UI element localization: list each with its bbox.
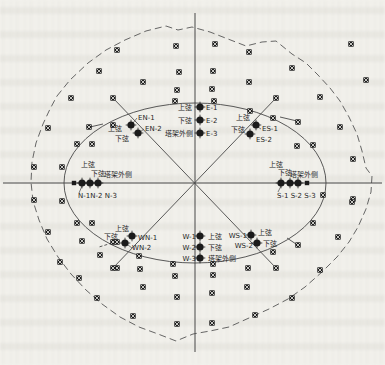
point-dot (196, 243, 203, 250)
label-ws1: WS-1 (229, 232, 247, 240)
label-e2: E-2 (206, 117, 217, 125)
label-n-ids: N-1N-2 N-3 (78, 192, 117, 200)
grid-marker (110, 95, 115, 100)
point-dot (127, 121, 134, 128)
grid-marker (317, 94, 322, 99)
point-dot (247, 231, 254, 238)
measure-point-w-3 (195, 253, 206, 264)
grid-marker (97, 252, 102, 257)
grid-marker (174, 321, 179, 326)
label-e1: E-1 (206, 104, 217, 112)
grid-marker (137, 266, 142, 271)
measure-point-e-2 (195, 115, 206, 126)
grid-marker (173, 43, 178, 48)
label-ws2: WS-2 (235, 242, 253, 250)
point-dot (121, 239, 128, 246)
label-wn-upper: 上弦 (115, 224, 129, 233)
label-n-outer: 塔架外侧 (104, 170, 132, 179)
point-dot (286, 179, 293, 186)
layout-diagram-svg: 上弦下弦塔架外侧E-1E-2E-3EN-1EN-2上弦下弦上弦下弦ES-1ES-… (0, 0, 385, 365)
grid-marker (59, 164, 64, 169)
grid-marker (76, 275, 81, 280)
ring-marker (89, 141, 94, 146)
grid-marker (289, 65, 294, 70)
measure-point-ws-1 (246, 230, 257, 241)
point-dot (277, 179, 284, 186)
grid-marker (294, 143, 299, 148)
grid-marker (31, 197, 36, 202)
grid-marker (310, 220, 315, 225)
label-n-lower: 下弦 (91, 169, 105, 178)
grid-marker (74, 141, 79, 146)
point-dot (252, 121, 259, 128)
grid-marker (295, 119, 300, 124)
point-dot (86, 179, 93, 186)
label-en-lower: 下弦 (115, 134, 129, 143)
grid-marker (310, 142, 315, 147)
grid-marker (209, 320, 214, 325)
grid-marker (212, 41, 217, 46)
label-wn2: WN-2 (132, 244, 151, 252)
grid-marker (68, 95, 73, 100)
grid-marker (209, 86, 214, 91)
label-e-lower: 下弦 (178, 116, 192, 125)
label-e-upper: 上弦 (178, 103, 192, 112)
grid-marker (59, 198, 64, 203)
grid-marker (94, 295, 99, 300)
label-en2: EN-2 (145, 125, 162, 133)
axis-end-square (72, 181, 76, 185)
grid-marker (45, 229, 50, 234)
label-wn-lower: 下弦 (104, 232, 118, 241)
point-dot (196, 116, 203, 123)
grid-marker (348, 41, 353, 46)
point-dot (246, 130, 253, 137)
axis-end-square (305, 181, 309, 185)
point-dot (196, 129, 203, 136)
label-w1: W-1 (182, 233, 196, 241)
point-dot (78, 179, 85, 186)
point-dot (94, 179, 101, 186)
grid-marker (295, 242, 300, 247)
grid-marker (350, 156, 355, 161)
spoke-line-3 (90, 124, 103, 127)
measure-point-s-3 (293, 178, 304, 189)
grid-marker (289, 295, 294, 300)
label-w-lower: 下弦 (208, 243, 222, 252)
measure-point-w-2 (195, 242, 206, 253)
label-wn1: WN-1 (138, 234, 157, 242)
grid-marker (363, 77, 368, 82)
ring-marker (170, 261, 175, 266)
grid-marker (140, 284, 145, 289)
grid-marker (210, 272, 215, 277)
label-es-lower: 下弦 (231, 125, 245, 134)
measure-point-n-3 (93, 178, 104, 189)
label-es2: ES-2 (256, 136, 272, 144)
measure-point-en-2 (133, 128, 144, 139)
label-s-upper: 上弦 (269, 160, 283, 169)
ring-marker (89, 220, 94, 225)
grid-marker (130, 313, 135, 318)
label-e-outer: 塔架外侧 (165, 129, 193, 138)
point-dot (253, 239, 260, 246)
ring-marker (211, 98, 216, 103)
grid-marker (140, 79, 145, 84)
grid-marker (273, 265, 278, 270)
grid-marker (210, 68, 215, 73)
point-dot (128, 232, 135, 239)
label-es-upper: 上弦 (236, 113, 250, 122)
grid-marker (31, 164, 36, 169)
ring-marker (270, 115, 275, 120)
point-dot (294, 179, 301, 186)
label-w-upper: 上弦 (208, 232, 222, 241)
label-ws-lower: 下弦 (263, 239, 277, 248)
grid-marker (320, 192, 325, 197)
label-en1: EN-1 (138, 114, 155, 122)
grid-marker (337, 124, 342, 129)
measure-point-es-2 (245, 129, 256, 140)
spoke-line-4 (99, 243, 112, 247)
measure-point-ws-2 (252, 238, 263, 249)
point-dot (196, 103, 203, 110)
point-dot (196, 254, 203, 261)
ring-marker (172, 98, 177, 103)
grid-marker (246, 79, 251, 84)
